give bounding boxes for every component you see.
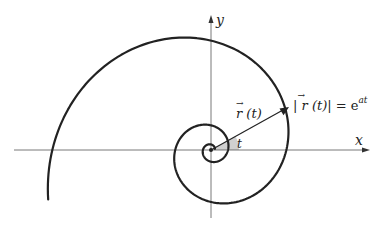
x-axis-label: x — [355, 133, 363, 147]
magnitude-label: | r → (t)| = eat — [293, 98, 367, 112]
magnitude-vector-accent: → — [297, 91, 305, 100]
x-axis-arrowhead — [362, 148, 370, 153]
spiral-figure — [0, 0, 378, 230]
vector-arrow-accent: → — [236, 99, 244, 108]
angle-label: t — [237, 138, 242, 150]
magnitude-equals-e: | = e — [327, 98, 358, 113]
vector-symbol: r — [236, 106, 242, 121]
magnitude-vector-symbol: r — [302, 98, 308, 113]
y-axis-label: y — [216, 13, 224, 27]
magnitude-argument: (t) — [312, 98, 327, 113]
diagram-canvas: y x r → (t) | r → (t)| = eat t — [0, 0, 378, 230]
y-axis-arrowhead — [209, 15, 214, 23]
vector-argument: (t) — [246, 106, 261, 121]
magnitude-exponent: at — [359, 95, 368, 105]
vector-label: r → (t) — [236, 107, 262, 120]
